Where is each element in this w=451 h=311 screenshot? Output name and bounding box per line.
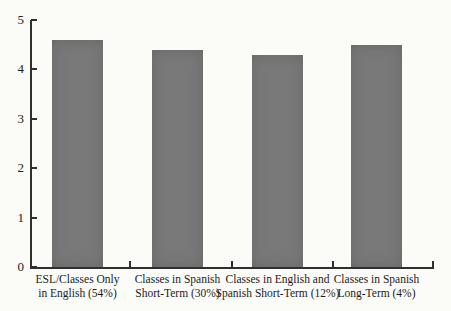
x-category-label-line: Classes in Spanish <box>307 272 447 286</box>
x-axis-tick <box>432 261 434 267</box>
x-axis-line <box>30 267 434 269</box>
y-axis-tick <box>31 19 37 21</box>
bar-chart-figure: 012345ESL/Classes Onlyin English (54%)Cl… <box>0 0 451 311</box>
bar-1 <box>52 40 103 267</box>
y-axis-tick <box>31 217 37 219</box>
x-axis-tick <box>129 261 131 267</box>
bar-4 <box>351 45 402 267</box>
y-axis-tick-label: 1 <box>0 210 24 226</box>
y-axis-tick <box>31 118 37 120</box>
x-axis-tick <box>332 261 334 267</box>
y-axis-line <box>30 20 32 267</box>
y-axis-tick-label: 4 <box>0 61 24 77</box>
x-category-label-line: Long-Term (4%) <box>307 286 447 300</box>
bar-2 <box>152 50 203 267</box>
y-axis-tick-label: 3 <box>0 111 24 127</box>
y-axis-tick <box>31 68 37 70</box>
x-category-label: Classes in SpanishLong-Term (4%) <box>307 272 447 300</box>
y-axis-tick <box>31 266 37 268</box>
y-axis-tick-label: 2 <box>0 160 24 176</box>
x-axis-tick <box>231 261 233 267</box>
y-axis-tick-label: 5 <box>0 12 24 28</box>
y-axis-tick <box>31 167 37 169</box>
bar-3 <box>252 55 303 267</box>
plot-area: 012345ESL/Classes Onlyin English (54%)Cl… <box>0 0 451 311</box>
